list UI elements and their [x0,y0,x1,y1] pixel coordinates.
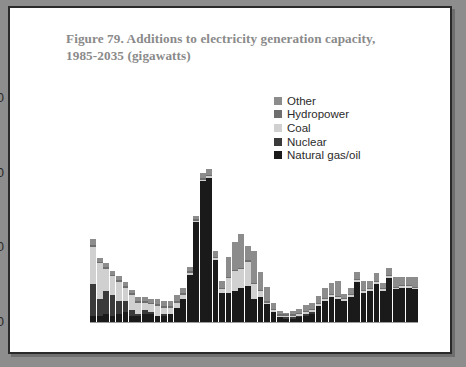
bar-segment [155,306,161,315]
bar-segment [238,288,244,323]
legend-swatch-icon [274,97,282,105]
bar-segment [386,278,392,323]
bar-segment [219,293,225,323]
bar-segment [238,269,244,288]
bar-segment [367,281,373,288]
bar-segment [213,260,219,323]
figure-title: Figure 79. Additions to electricity gene… [66,30,436,64]
plot-area: 0204060 198519952005201520252035 [90,92,418,323]
bar-segment [123,301,129,312]
bar-segment [264,287,270,302]
bar-segment [116,301,122,314]
bar-segment [148,304,154,311]
bar-segment [322,288,328,297]
bar-segment [97,263,103,298]
bar-segment [193,222,199,323]
bar-series-container [90,92,418,323]
x-axis-line [90,322,418,323]
bar-segment [206,178,212,323]
bar-segment [258,297,264,323]
bar-segment [219,281,225,288]
bar-segment [135,303,141,314]
figure-title-line-2: 1985-2035 (gigawatts) [66,47,436,64]
bar-segment [329,297,335,323]
bar-column [412,92,418,323]
bar-segment [329,283,335,294]
bar-segment [103,291,109,313]
bar-segment [226,278,232,293]
y-axis-tick-label: 60 [0,91,4,105]
y-axis-tick-label: 0 [0,315,4,329]
bar-segment [251,284,257,299]
legend-item-label: Hydropower [287,108,349,120]
legend-item-label: Coal [287,122,311,134]
bar-segment [367,291,373,323]
bar-segment [322,301,328,323]
bar-segment [374,273,380,280]
legend-item[interactable]: Other [274,94,361,108]
bar-segment [180,299,186,323]
bar-segment [245,262,251,286]
bar-segment [110,295,116,315]
bar-segment [103,269,109,291]
legend-item[interactable]: Natural gas/oil [274,148,361,162]
bar-segment [335,299,341,323]
bar-segment [361,281,367,290]
legend-item-label: Other [287,95,316,107]
legend-item[interactable]: Nuclear [274,135,361,149]
legend-item[interactable]: Hydropower [274,108,361,122]
bar-segment [264,304,270,323]
bar-segment [406,277,412,284]
bar-segment [90,247,96,284]
bar-segment [335,281,341,296]
legend-swatch-icon [274,124,282,132]
figure-frame: Figure 79. Additions to electricity gene… [8,6,452,354]
bar-segment [123,288,129,301]
y-axis-tick-label: 20 [0,240,4,254]
bar-segment [232,271,238,291]
y-axis-tick-label: 40 [0,166,4,180]
bar-segment [399,288,405,323]
bar-segment [226,293,232,323]
bar-segment [354,282,360,323]
bar-segment [380,291,386,323]
bar-segment [399,277,405,284]
bar-segment [393,289,399,323]
bar-segment [129,295,135,310]
bar-segment [226,257,232,277]
bar-segment [258,272,264,291]
bar-segment [393,277,399,286]
bar-segment [232,291,238,323]
bar-segment [386,268,392,275]
bar-segment [116,282,122,301]
bar-segment [374,284,380,323]
bar-segment [142,303,148,310]
legend-swatch-icon [274,151,282,159]
bar-segment [341,301,347,323]
legend-item-label: Natural gas/oil [287,149,361,161]
bar-segment [110,276,116,295]
bar-segment [354,272,360,279]
bar-segment [251,251,257,283]
chart-legend: OtherHydropowerCoalNuclearNatural gas/oi… [274,94,361,162]
bar-segment [412,277,418,286]
bar-segment [97,299,103,316]
bar-segment [412,289,418,323]
legend-item-label: Nuclear [287,136,327,148]
bar-segment [245,246,251,261]
bar-segment [251,299,257,323]
bar-segment [200,181,206,323]
figure-title-line-1: Figure 79. Additions to electricity gene… [66,30,436,47]
bar-segment [232,242,238,270]
bar-segment [245,286,251,323]
bar-segment [316,306,322,323]
bar-segment [174,308,180,323]
legend-item[interactable]: Coal [274,121,361,135]
bar-segment [361,293,367,323]
legend-swatch-icon [274,110,282,118]
bar-segment [90,284,96,316]
bar-segment [238,234,244,268]
bar-segment [406,288,412,323]
legend-swatch-icon [274,138,282,146]
bar-segment [187,275,193,323]
